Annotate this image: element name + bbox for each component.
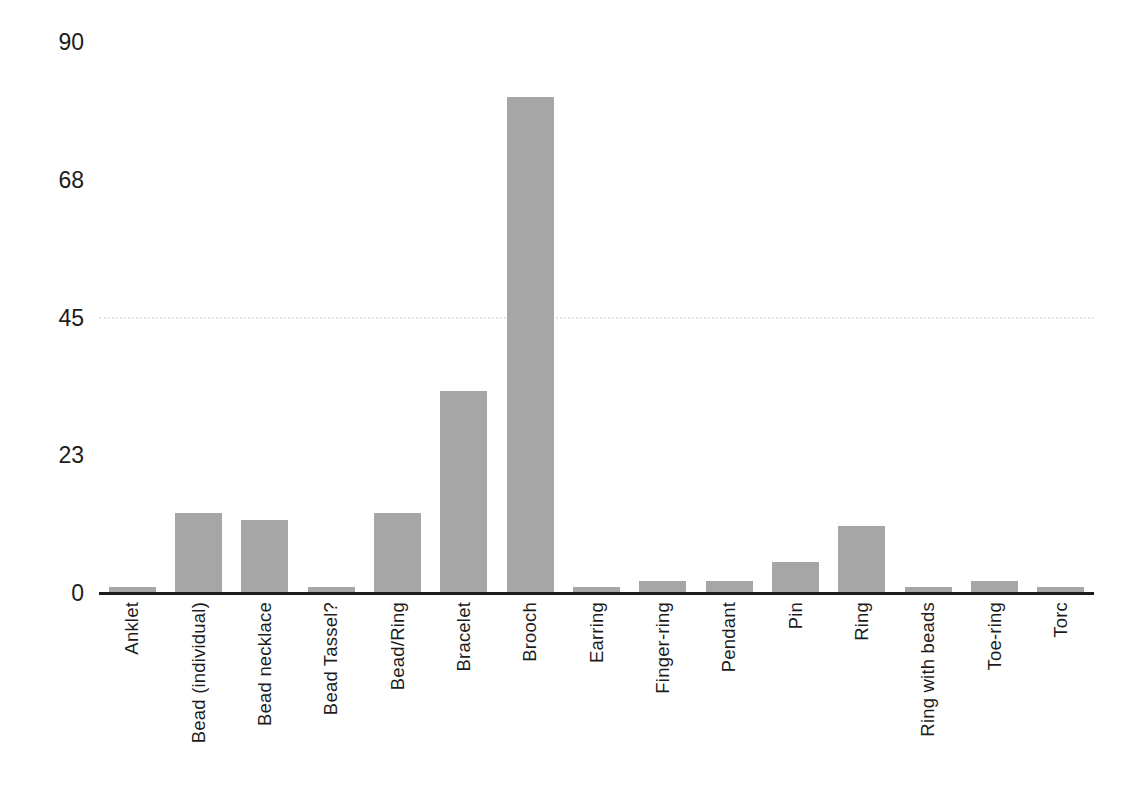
x-tick-label-bead-individual: Bead (individual) (188, 602, 210, 743)
faint-gridline-45 (99, 317, 1094, 319)
bar-bead-ring (374, 513, 421, 593)
bar-pin (772, 562, 819, 593)
bar-bead-individual (175, 513, 222, 593)
x-tick-label-ring: Ring (851, 602, 873, 641)
bar-bead-necklace (241, 520, 288, 593)
x-tick-label-torc: Torc (1050, 602, 1072, 638)
x-tick-label-bracelet: Bracelet (453, 602, 475, 671)
bar-brooch (507, 97, 554, 593)
x-tick-label-ring-with-beads: Ring with beads (917, 602, 939, 737)
x-tick-label-finger-ring: Finger-ring (652, 602, 674, 694)
x-tick-label-anklet: Anklet (121, 602, 143, 655)
x-axis-line (99, 592, 1094, 595)
bar-ring (838, 526, 885, 593)
x-tick-label-brooch: Brooch (519, 602, 541, 662)
bar-chart: AnkletBead (individual)Bead necklaceBead… (0, 0, 1147, 793)
x-tick-label-toe-ring: Toe-ring (984, 602, 1006, 670)
x-tick-label-bead-necklace: Bead necklace (254, 602, 276, 726)
y-tick-label-0: 0 (24, 582, 84, 605)
bar-bracelet (440, 391, 487, 593)
x-tick-label-pendant: Pendant (718, 602, 740, 672)
y-tick-label-23: 23 (24, 444, 84, 467)
y-tick-label-90: 90 (24, 31, 84, 54)
x-tick-label-earring: Earring (586, 602, 608, 663)
x-tick-label-pin: Pin (785, 602, 807, 629)
y-tick-label-45: 45 (24, 306, 84, 329)
y-tick-label-68: 68 (24, 168, 84, 191)
x-tick-label-bead-ring: Bead/Ring (387, 602, 409, 690)
x-tick-label-bead-tassel: Bead Tassel? (320, 602, 342, 715)
